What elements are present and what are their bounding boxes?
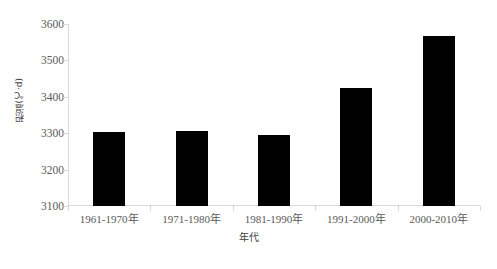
x-axis-tick-label: 2000-2010年 (391, 212, 487, 226)
x-axis-tick-mark (150, 206, 151, 211)
x-axis-tick-mark (233, 206, 234, 211)
x-axis-tick-label-group: 1961-1970年1971-1980年1981-1990年1991-2000年… (68, 212, 480, 230)
y-axis-line (68, 24, 69, 206)
y-axis-tick-label: 3300 (20, 127, 64, 139)
x-axis-tick-mark (480, 206, 481, 211)
x-axis-tick-mark (398, 206, 399, 211)
bar (258, 135, 290, 206)
bar-chart: 积温(℃·d) 310032003300340035003600 1961-19… (0, 0, 497, 269)
y-axis-tick-label: 3100 (20, 200, 64, 212)
x-axis-tick-mark (315, 206, 316, 211)
x-axis-tick-mark (68, 206, 69, 211)
bar (423, 36, 455, 206)
x-axis-title: 年代 (0, 232, 497, 244)
bar (176, 131, 208, 206)
y-axis-tick-label: 3500 (20, 54, 64, 66)
y-axis-tick-label: 3400 (20, 91, 64, 103)
y-axis-tick-mark (63, 24, 68, 25)
y-axis-tick-mark (63, 60, 68, 61)
bar (93, 132, 125, 206)
y-axis-tick-label: 3600 (20, 18, 64, 30)
y-axis-tick-label-group: 310032003300340035003600 (20, 0, 64, 269)
y-axis-tick-mark (63, 170, 68, 171)
y-axis-tick-mark (63, 133, 68, 134)
y-axis-tick-label: 3200 (20, 164, 64, 176)
plot-area (68, 24, 480, 206)
y-axis-tick-mark (63, 97, 68, 98)
bar (340, 88, 372, 206)
